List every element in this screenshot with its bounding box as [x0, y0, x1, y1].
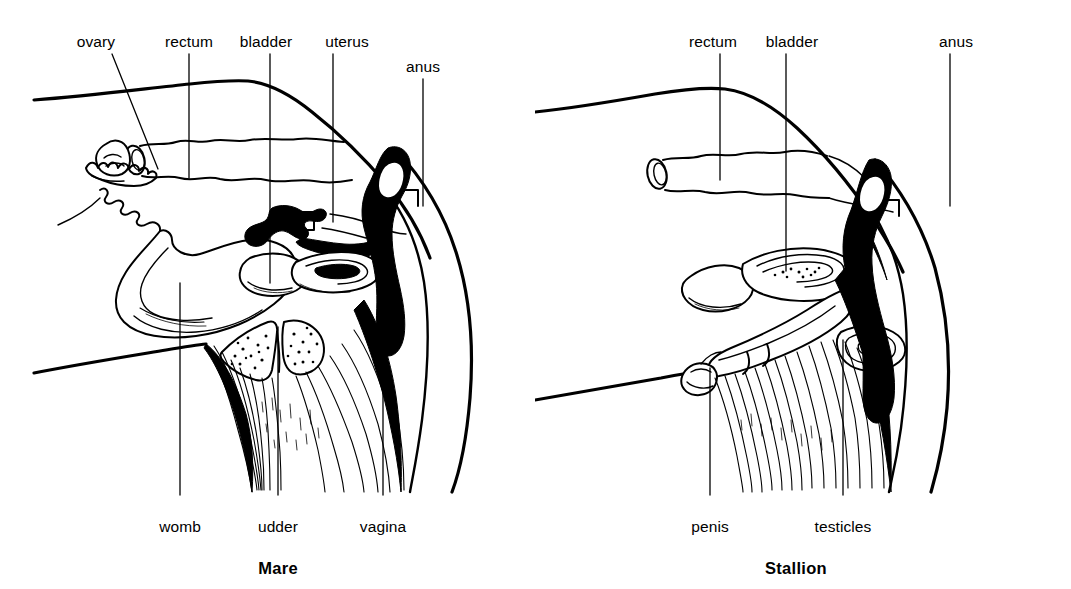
- stallion-illustration: [535, 0, 1071, 589]
- label-rectum-stallion: rectum: [689, 34, 737, 50]
- panel-mare: ovary rectum bladder uterus anus womb ud…: [0, 0, 536, 589]
- label-testicles: testicles: [815, 519, 872, 535]
- label-penis: penis: [691, 519, 729, 535]
- mare-hindquarter-outline: [396, 150, 471, 492]
- label-udder: udder: [258, 519, 298, 535]
- label-rectum: rectum: [165, 34, 213, 50]
- caption-mare: Mare: [258, 559, 298, 578]
- mare-illustration: [0, 0, 536, 589]
- label-bladder-stallion: bladder: [766, 34, 818, 50]
- label-uterus: uterus: [325, 34, 369, 50]
- panel-stallion: rectum bladder anus penis testicles Stal…: [535, 0, 1071, 589]
- mare-tail-stipple-strokes: [262, 398, 319, 450]
- label-bladder: bladder: [240, 34, 292, 50]
- mare-vagina: [292, 252, 380, 293]
- mare-ovary: [96, 141, 130, 176]
- label-anus-stallion: anus: [939, 34, 973, 50]
- label-ovary: ovary: [77, 34, 115, 50]
- label-womb: womb: [159, 519, 201, 535]
- mare-oviduct: [58, 189, 160, 231]
- label-vagina: vagina: [360, 519, 406, 535]
- anatomy-figure: ovary rectum bladder uterus anus womb ud…: [0, 0, 1071, 589]
- label-anus: anus: [406, 59, 440, 75]
- caption-stallion: Stallion: [765, 559, 827, 578]
